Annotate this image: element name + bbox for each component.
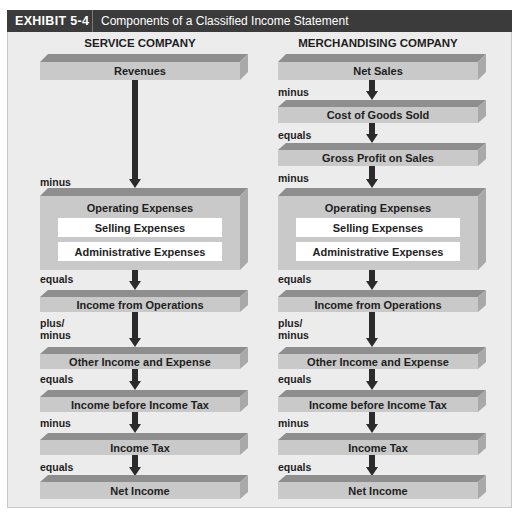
box-income-from-operations: Income from Operations: [278, 290, 486, 312]
equals-label: equals: [278, 273, 311, 285]
equals-label: equals: [278, 373, 311, 385]
box-net-sales: Net Sales: [278, 54, 486, 80]
cost-of-goods-sold-label: Cost of Goods Sold: [278, 107, 478, 123]
box-income-from-operations: Income from Operations: [40, 290, 248, 312]
income-before-tax-label: Income before Income Tax: [40, 397, 240, 412]
minus-label: minus: [278, 172, 309, 184]
arrow-down-icon: [366, 123, 378, 143]
minus-label: minus: [278, 417, 309, 429]
income-tax-label: Income Tax: [40, 440, 240, 455]
arrow-down-icon: [366, 166, 378, 188]
operating-expenses-label: Operating Expenses: [87, 202, 193, 214]
arrow-down-icon: [366, 412, 378, 433]
arrow-down-icon: [366, 270, 378, 290]
arrow-down-icon: [366, 369, 378, 390]
revenues-label: Revenues: [40, 62, 240, 80]
equals-label: equals: [40, 273, 73, 285]
box-operating-expenses: Operating Expenses Selling Expenses Admi…: [40, 188, 248, 270]
selling-expenses-label: Selling Expenses: [58, 218, 222, 237]
arrow-down-icon: [129, 312, 141, 347]
box-gross-profit: Gross Profit on Sales: [278, 143, 486, 166]
arrow-down-icon: [129, 270, 141, 290]
box-other-income-expense: Other Income and Expense: [40, 347, 248, 369]
administrative-expenses-label: Administrative Expenses: [296, 242, 460, 261]
exhibit-number: EXHIBIT 5-4: [7, 10, 93, 32]
gross-profit-label: Gross Profit on Sales: [278, 150, 478, 166]
box-other-income-expense: Other Income and Expense: [278, 347, 486, 369]
exhibit-header: EXHIBIT 5-4 Components of a Classified I…: [7, 10, 512, 32]
box-cost-of-goods-sold: Cost of Goods Sold: [278, 100, 486, 123]
merchandising-company-title: MERCHANDISING COMPANY: [278, 37, 478, 49]
income-before-tax-label: Income before Income Tax: [278, 397, 478, 412]
arrow-down-icon: [129, 412, 141, 433]
administrative-expenses-label: Administrative Expenses: [58, 242, 222, 261]
other-income-expense-label: Other Income and Expense: [278, 354, 478, 369]
equals-label: equals: [40, 461, 73, 473]
arrow-down-icon: [129, 80, 141, 188]
plus-minus-label: plus/minus: [40, 317, 71, 341]
income-tax-label: Income Tax: [278, 440, 478, 455]
service-company-title: SERVICE COMPANY: [40, 37, 240, 49]
equals-label: equals: [278, 129, 311, 141]
exhibit-title: Components of a Classified Income Statem…: [93, 10, 348, 32]
minus-label: minus: [278, 86, 309, 98]
box-income-before-tax: Income before Income Tax: [40, 390, 248, 412]
other-income-expense-label: Other Income and Expense: [40, 354, 240, 369]
arrow-down-icon: [129, 455, 141, 476]
arrow-down-icon: [366, 455, 378, 476]
box-net-income: Net Income: [40, 475, 248, 499]
box-income-before-tax: Income before Income Tax: [278, 390, 486, 412]
box-revenues: Revenues: [40, 54, 248, 80]
box-income-tax: Income Tax: [278, 433, 486, 455]
op-minus-label: minus: [40, 176, 71, 188]
plus-minus-label: plus/minus: [278, 317, 309, 341]
net-income-label: Net Income: [278, 482, 478, 499]
arrow-down-icon: [129, 369, 141, 390]
income-from-operations-label: Income from Operations: [278, 297, 478, 312]
income-from-operations-label: Income from Operations: [40, 297, 240, 312]
net-sales-label: Net Sales: [278, 62, 478, 80]
operating-expenses-label: Operating Expenses: [325, 202, 431, 214]
arrow-down-icon: [366, 80, 378, 100]
box-income-tax: Income Tax: [40, 433, 248, 455]
equals-label: equals: [40, 373, 73, 385]
box-operating-expenses: Operating Expenses Selling Expenses Admi…: [278, 188, 486, 270]
box-net-income: Net Income: [278, 475, 486, 499]
net-income-label: Net Income: [40, 482, 240, 499]
minus-label: minus: [40, 417, 71, 429]
equals-label: equals: [278, 461, 311, 473]
arrow-down-icon: [366, 312, 378, 347]
selling-expenses-label: Selling Expenses: [296, 218, 460, 237]
